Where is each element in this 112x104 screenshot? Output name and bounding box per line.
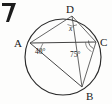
angle-label-A: 40° — [35, 47, 46, 56]
chord-BC — [82, 42, 96, 87]
page-corner-mark-icon — [2, 3, 16, 22]
main-circle — [25, 19, 101, 95]
chord-DC — [72, 16, 96, 42]
angle-label-D-unknown: x — [68, 24, 73, 33]
vertex-label-C: C — [100, 36, 107, 48]
chord-AC — [30, 42, 96, 43]
vertex-label-A: A — [14, 37, 22, 49]
vertex-label-B: B — [86, 90, 93, 102]
angle-label-C: 75° — [70, 50, 81, 59]
vertex-label-D: D — [66, 3, 74, 15]
geometry-figure: A B C D 40° 75° x — [0, 0, 112, 104]
geometry-canvas: A B C D 40° 75° x — [0, 0, 112, 104]
